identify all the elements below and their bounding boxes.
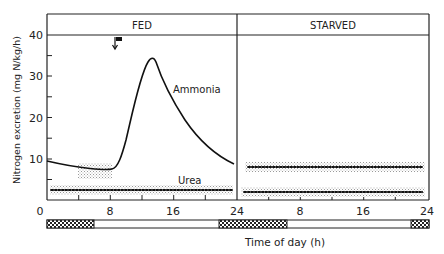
dark-period-2 (219, 220, 287, 228)
light-dark-bar (47, 220, 429, 228)
ammonia-trough-band (78, 163, 112, 179)
x-tick-24b: 24 (420, 205, 434, 218)
x-tick-16b: 16 (356, 205, 370, 218)
ammonia-curve (47, 58, 234, 169)
x-tick-0: 0 (37, 205, 44, 218)
panel-label-starved: STARVED (310, 20, 356, 31)
chart: FED STARVED 40 30 20 10 0 8 16 24 8 16 2… (0, 0, 444, 254)
panel-label-fed: FED (132, 20, 152, 31)
x-tick-8a: 8 (107, 205, 114, 218)
dark-period-1 (47, 220, 94, 228)
y-tick-10: 10 (29, 153, 43, 166)
ammonia-label: Ammonia (173, 84, 221, 95)
urea-label: Urea (178, 175, 202, 186)
dark-period-3 (411, 220, 429, 228)
y-tick-40: 40 (29, 29, 43, 42)
y-axis-title: Nitrogen excretion (mg N/kg/h) (11, 36, 22, 184)
x-tick-24a: 24 (230, 205, 244, 218)
x-tick-8b: 8 (297, 205, 304, 218)
x-axis-title: Time of day (h) (244, 236, 325, 248)
x-tick-16a: 16 (166, 205, 180, 218)
y-tick-30: 30 (29, 70, 43, 83)
y-tick-20: 20 (29, 112, 43, 125)
feeding-marker-icon (113, 37, 123, 49)
